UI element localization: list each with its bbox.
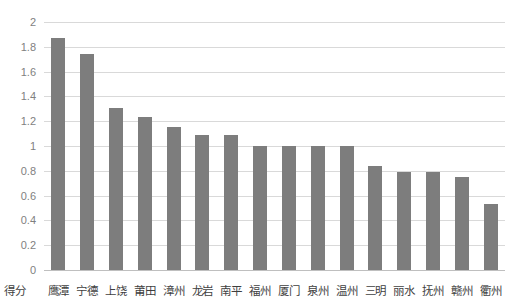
- bar: [109, 108, 123, 270]
- bar: [426, 172, 440, 270]
- bar: [311, 146, 325, 270]
- y-axis-tick-label: 1.6: [21, 66, 36, 77]
- y-axis-tick-label: 0.8: [21, 165, 36, 176]
- bars-layer: [44, 22, 505, 270]
- x-axis-category-label: 宁德: [76, 284, 98, 298]
- y-axis-tick-label: 0: [30, 265, 36, 276]
- x-axis-category-label: 厦门: [278, 284, 300, 298]
- bar: [397, 172, 411, 270]
- y-axis: 21.81.61.41.210.80.60.40.20: [0, 22, 40, 270]
- y-axis-tick-label: 1.8: [21, 41, 36, 52]
- x-axis-category-label: 衢州: [480, 284, 502, 298]
- x-axis-name-label: 得分: [4, 284, 26, 298]
- bar: [282, 146, 296, 270]
- bar: [455, 177, 469, 270]
- y-axis-tick-label: 1: [30, 141, 36, 152]
- x-axis-category-label: 鹰潭: [48, 284, 70, 298]
- axis-baseline: [44, 270, 505, 271]
- bar: [253, 146, 267, 270]
- y-axis-tick-label: 1.4: [21, 91, 36, 102]
- x-axis-category-label: 龙岩: [192, 284, 214, 298]
- y-axis-tick-label: 1.2: [21, 116, 36, 127]
- x-axis-category-label: 温州: [336, 284, 358, 298]
- bar: [167, 127, 181, 270]
- bar: [484, 204, 498, 270]
- x-axis-category-label: 丽水: [393, 284, 415, 298]
- bar: [80, 54, 94, 270]
- x-axis-category-label: 漳州: [163, 284, 185, 298]
- bar: [195, 135, 209, 270]
- y-axis-tick-label: 0.6: [21, 190, 36, 201]
- x-axis: 得分鹰潭宁德上饶莆田漳州龙岩南平福州厦门泉州温州三明丽水抚州赣州衢州: [0, 284, 512, 306]
- y-axis-tick-label: 0.4: [21, 215, 36, 226]
- y-axis-tick-label: 2: [30, 17, 36, 28]
- x-axis-category-label: 莆田: [134, 284, 156, 298]
- x-axis-category-label: 上饶: [105, 284, 127, 298]
- x-axis-category-label: 南平: [220, 284, 242, 298]
- x-axis-category-label: 三明: [365, 284, 387, 298]
- bar: [368, 166, 382, 270]
- bar: [138, 117, 152, 270]
- x-axis-category-label: 泉州: [307, 284, 329, 298]
- bar: [224, 135, 238, 270]
- bar: [51, 38, 65, 270]
- y-axis-tick-label: 0.2: [21, 240, 36, 251]
- bar: [340, 146, 354, 270]
- x-axis-category-label: 福州: [249, 284, 271, 298]
- bar-chart: 21.81.61.41.210.80.60.40.20 得分鹰潭宁德上饶莆田漳州…: [0, 0, 512, 308]
- x-axis-category-label: 赣州: [451, 284, 473, 298]
- x-axis-category-label: 抚州: [422, 284, 444, 298]
